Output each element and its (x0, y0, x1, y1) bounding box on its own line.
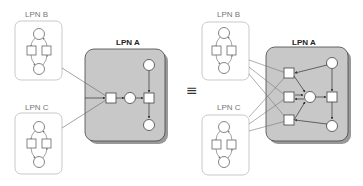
right-lpn-b-label: LPN B (217, 10, 240, 19)
right-lpn-a-label: LPN A (292, 38, 316, 47)
equivalence-symbol: ≡ (186, 82, 198, 98)
right-diagram: LPN B LPN C LPN A (202, 10, 351, 175)
right-lpn-b: LPN B (202, 10, 249, 80)
left-lpn-c-label: LPN C (25, 103, 49, 112)
left-lpn-c: LPN C (15, 103, 62, 174)
right-lpn-a: LPN A (249, 38, 351, 144)
left-lpn-b: LPN B (15, 10, 62, 80)
right-lpn-c-label: LPN C (217, 103, 241, 112)
left-diagram: LPN B LPN C LPN A (15, 10, 168, 174)
left-lpn-a-label: LPN A (116, 38, 140, 47)
diagram-canvas: LPN B LPN C LPN A (0, 0, 363, 186)
right-lpn-c: LPN C (202, 103, 249, 175)
left-lpn-a: LPN A (62, 38, 168, 144)
left-lpn-b-label: LPN B (25, 10, 48, 19)
